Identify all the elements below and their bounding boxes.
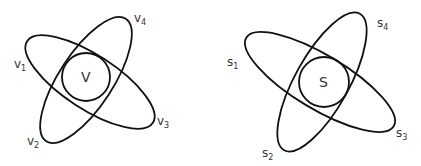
- center-label-s: S: [319, 74, 328, 90]
- label-v4: v4: [134, 11, 146, 27]
- diagram-canvas: V v1 v2 v3 v4 S s1 s2 s3 s4: [0, 0, 421, 166]
- label-v3: v3: [157, 114, 169, 130]
- label-s1: s1: [227, 55, 238, 71]
- label-v2: v2: [27, 134, 39, 150]
- label-v1: v1: [14, 57, 26, 73]
- center-label-v: V: [81, 69, 91, 85]
- label-s3: s3: [396, 126, 407, 142]
- right-diagram: S s1 s2 s3 s4: [227, 1, 408, 164]
- label-s2: s2: [262, 146, 273, 162]
- label-s4: s4: [377, 16, 388, 32]
- left-diagram: V v1 v2 v3 v4: [12, 4, 169, 156]
